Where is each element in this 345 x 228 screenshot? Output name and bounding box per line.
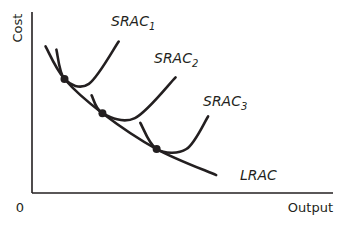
lrac-label: LRAC (240, 167, 277, 183)
srac1-label: SRAC1 (111, 13, 155, 32)
x-axis-label: Output (288, 200, 333, 215)
srac3-label: SRAC3 (203, 93, 247, 112)
origin-label: 0 (16, 200, 24, 215)
cost-curves-chart: Cost 0 Output SRAC1 SRAC2 SRAC3 LRAC (0, 0, 345, 228)
tangent-point-2 (98, 109, 106, 117)
srac3-curve (140, 116, 208, 152)
tangent-point-3 (153, 145, 161, 153)
srac2-label: SRAC2 (154, 50, 198, 69)
y-axis-label: Cost (10, 14, 25, 43)
tangent-point-1 (61, 75, 69, 83)
